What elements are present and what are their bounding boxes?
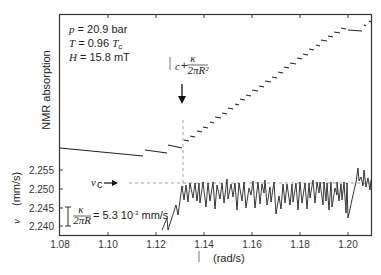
vc-sub: c: [97, 178, 103, 190]
x-tick-label: 1.14: [194, 239, 214, 250]
x-tick-labels: 1.08 1.10 1.12 1.14 1.16 1.18 1.20: [50, 239, 358, 250]
param-T-value: = 0.96: [75, 37, 112, 49]
quantum-step-annotation: κ 2πR = 5.3 10-3 mm/s: [65, 203, 169, 226]
x-tick-label: 1.20: [338, 239, 358, 250]
kappa-den: 2πR: [73, 214, 91, 226]
x-tick-label: 1.08: [50, 239, 70, 250]
critical-omega-annotation: c + κ 2πR²: [170, 52, 209, 104]
omega-c-sub: c: [175, 60, 180, 72]
param-p-value: = 20.9 bar: [75, 23, 128, 35]
arrow-down-icon: [178, 96, 186, 104]
svg-text:T = 0.96 Tc: T = 0.96 Tc: [69, 37, 122, 51]
x-axis-unit: (rad/s): [213, 252, 245, 264]
param-Tc-sub: c: [118, 42, 122, 51]
x-tick-label: 1.16: [242, 239, 262, 250]
lower-y-var: v: [10, 219, 22, 224]
svg-text:= 5.3 10-3 mm/s: = 5.3 10-3 mm/s: [93, 209, 169, 221]
omega-c-num: κ: [190, 52, 196, 64]
velocity-series: [162, 168, 371, 230]
x-tick-label: 1.12: [146, 239, 166, 250]
y-tick-label: 2.240: [29, 221, 54, 232]
svg-text:p = 20.9 bar: p = 20.9 bar: [68, 23, 128, 35]
param-H-value: = 15.8 mT: [77, 51, 130, 63]
svg-text:H = 15.8 mT: H = 15.8 mT: [68, 51, 130, 63]
chart: 1.08 1.10 1.12 1.14 1.16 1.18 1.20 2.255…: [0, 0, 381, 275]
y-tick-label: 2.245: [29, 203, 54, 214]
vc-var: v: [91, 176, 96, 188]
kappa-unit: mm/s: [138, 209, 168, 221]
omega-c-den: 2πR²: [187, 64, 209, 76]
parameters-annotation: p = 20.9 bar T = 0.96 Tc H = 15.8 mT: [68, 23, 130, 63]
x-tick-label: 1.10: [98, 239, 118, 250]
x-tick-label: 1.18: [290, 239, 310, 250]
y-tick-label: 2.255: [29, 165, 54, 176]
upper-y-axis-label: NMR absorption: [40, 50, 52, 129]
lower-y-axis-label: v (mm/s): [10, 172, 22, 224]
y-tick-label: 2.250: [29, 184, 54, 195]
omega-c-plus: +: [181, 59, 187, 71]
kappa-value: = 5.3 10: [93, 209, 133, 221]
arrow-right-icon: [112, 180, 118, 186]
y-tick-labels: 2.255 2.250 2.245 2.240: [29, 165, 54, 232]
lower-y-unit: (mm/s): [10, 172, 22, 206]
vc-label: v c: [91, 176, 118, 190]
